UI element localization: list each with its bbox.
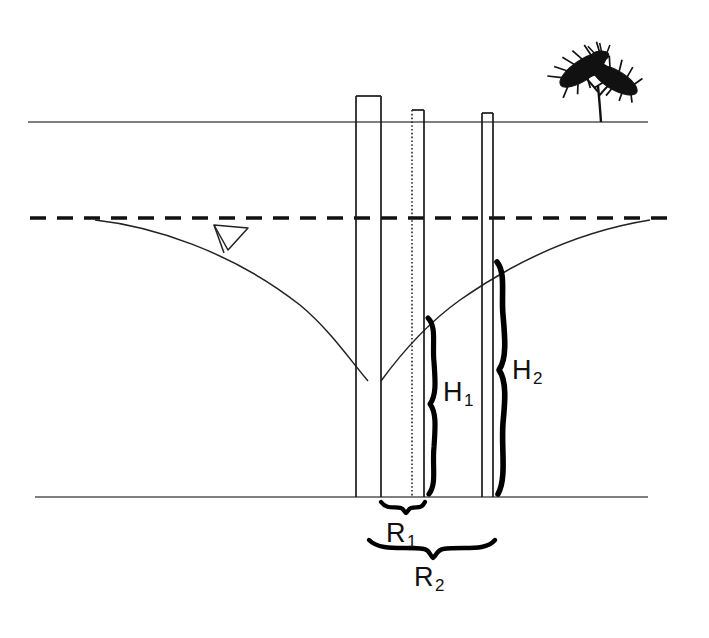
r2-label-base: R: [414, 562, 434, 592]
h1-label-base: H: [443, 377, 463, 407]
h2-brace: [497, 262, 505, 494]
h1-label-sub: 1: [464, 391, 474, 410]
h1-label: H1: [443, 377, 473, 408]
h2-label-base: H: [512, 355, 532, 385]
observation-well-1: [412, 110, 424, 497]
diagram-canvas: [0, 0, 709, 638]
shrub-icon: [543, 37, 648, 122]
h2-label: H2: [512, 355, 542, 386]
observation-well-2: [482, 113, 493, 497]
water-table-triangle-marker: [214, 225, 248, 253]
r1-label-sub: 1: [407, 532, 417, 551]
well-drawdown-diagram: H1 H2 R1 R2: [0, 0, 709, 638]
h1-brace: [428, 318, 435, 494]
r2-label: R2: [414, 562, 444, 593]
r1-label-base: R: [386, 518, 406, 548]
r1-brace: [381, 502, 425, 513]
h2-label-sub: 2: [533, 369, 543, 388]
pumping-well-casing: [356, 96, 381, 497]
r2-label-sub: 2: [435, 576, 445, 595]
r1-label: R1: [386, 518, 416, 549]
